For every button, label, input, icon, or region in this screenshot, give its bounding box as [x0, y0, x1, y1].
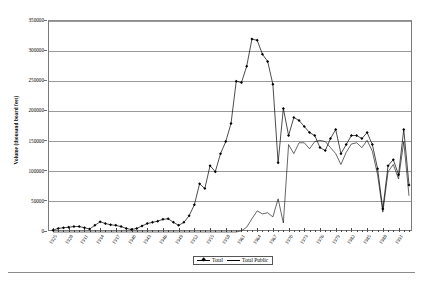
footer-divider: [8, 272, 415, 273]
data-point-marker: [67, 226, 70, 229]
data-point-marker: [62, 226, 65, 229]
x-axis-tick-label: 1940: [124, 234, 136, 248]
data-point-marker: [355, 134, 358, 137]
data-point-marker: [345, 143, 348, 146]
x-axis-tick-label: 1949: [172, 234, 184, 248]
y-axis-tick: [44, 20, 47, 21]
data-point-marker: [402, 128, 405, 131]
data-point-marker: [52, 229, 55, 232]
chart-figure: Volume (thousand board feet) 05000010000…: [0, 0, 423, 282]
y-axis-tick: [44, 50, 47, 51]
x-axis-tick-label: 1937: [109, 234, 121, 248]
legend-marker-total-public-icon: [227, 258, 240, 263]
data-point-marker: [256, 39, 259, 42]
x-axis-tick-label: 1961: [234, 234, 246, 248]
legend-item-total: Total: [197, 257, 223, 264]
y-axis-tick-label: 250000: [0, 77, 44, 83]
data-point-marker: [271, 83, 274, 86]
y-axis-tick: [44, 80, 47, 81]
data-point-marker: [224, 140, 227, 143]
data-point-marker: [141, 224, 144, 227]
x-axis-tick-label: 1958: [219, 234, 231, 248]
plot-area: [48, 20, 412, 231]
data-point-marker: [324, 149, 327, 152]
x-axis-tick-label: 1943: [140, 234, 152, 248]
series-canvas: [49, 21, 413, 232]
data-point-marker: [319, 146, 322, 149]
x-axis-tick-label: 1967: [266, 234, 278, 248]
y-axis-tick-label: 150000: [0, 138, 44, 144]
data-point-marker: [250, 38, 253, 41]
y-axis-tick-label: 200000: [0, 107, 44, 113]
y-axis-tick: [44, 110, 47, 111]
y-axis-tick-label: 300000: [0, 47, 44, 53]
y-axis-tick: [44, 200, 47, 201]
data-point-marker: [125, 227, 128, 230]
x-axis-tick-label: 1985: [360, 234, 372, 248]
data-point-marker: [78, 225, 81, 228]
data-point-marker: [245, 65, 248, 68]
x-axis-tick-label: 1976: [313, 234, 325, 248]
data-point-marker: [313, 134, 316, 137]
data-point-marker: [104, 222, 107, 225]
data-point-marker: [282, 107, 285, 110]
y-axis-tick-label: 0: [0, 228, 44, 234]
y-axis-tick: [44, 140, 47, 141]
data-point-marker: [240, 81, 243, 84]
series-line-total: [53, 39, 409, 230]
legend-item-total-public: Total Public: [227, 257, 268, 264]
data-point-marker: [334, 128, 337, 131]
x-axis-tick-label: 1970: [282, 234, 294, 248]
x-axis-tick-label: 1952: [187, 234, 199, 248]
y-axis-tick-label: 350000: [0, 17, 44, 23]
data-point-marker: [135, 227, 138, 230]
x-axis-tick-label: 1991: [391, 234, 403, 248]
data-point-marker: [219, 152, 222, 155]
x-axis-tick-label: 1931: [77, 234, 89, 248]
data-point-marker: [156, 220, 159, 223]
y-axis-tick: [44, 231, 47, 232]
data-point-marker: [371, 143, 374, 146]
y-axis-tick-label: 100000: [0, 168, 44, 174]
data-point-marker: [83, 226, 86, 229]
data-point-marker: [146, 222, 149, 225]
legend-label-total: Total: [212, 257, 223, 264]
data-point-marker: [130, 228, 133, 231]
data-point-marker: [161, 218, 164, 221]
legend-label-total-public: Total Public: [242, 257, 268, 264]
data-point-marker: [339, 152, 342, 155]
data-point-marker: [329, 137, 332, 140]
chart-legend: Total Total Public: [193, 256, 273, 265]
data-point-marker: [57, 227, 60, 230]
x-axis-tick-label: 1982: [344, 234, 356, 248]
legend-marker-total-icon: [197, 258, 210, 263]
data-point-marker: [287, 134, 290, 137]
data-point-marker: [72, 225, 75, 228]
x-axis-tick-label: 1925: [46, 234, 58, 248]
data-point-marker: [120, 225, 123, 228]
data-point-marker: [114, 224, 117, 227]
y-axis-tick: [44, 170, 47, 171]
x-axis-tick-label: 1946: [156, 234, 168, 248]
x-axis-tick-label: 1964: [250, 234, 262, 248]
x-axis-tick-label: 1928: [62, 234, 74, 248]
data-point-marker: [277, 161, 280, 164]
data-point-marker: [193, 203, 196, 206]
data-point-marker: [177, 224, 180, 227]
data-point-marker: [235, 80, 238, 83]
data-point-marker: [151, 221, 154, 224]
x-axis-tick-label: 1973: [297, 234, 309, 248]
data-point-marker: [350, 134, 353, 137]
x-axis-tick-label: 1979: [329, 234, 341, 248]
y-axis-tick-label: 50000: [0, 198, 44, 204]
x-axis-tick-label: 1934: [93, 234, 105, 248]
x-axis-tick-label: 1955: [203, 234, 215, 248]
data-point-marker: [109, 223, 112, 226]
data-point-marker: [230, 122, 233, 125]
data-point-marker: [292, 116, 295, 119]
x-axis-tick-label: 1988: [376, 234, 388, 248]
series-line-total-public: [53, 140, 409, 232]
